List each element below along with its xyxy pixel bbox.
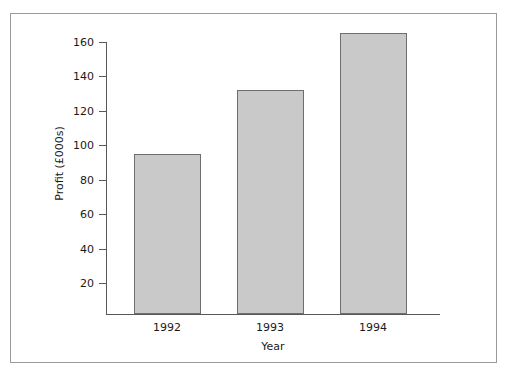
bar-1993 <box>237 90 304 314</box>
y-tick-label-20-wrap: 20 <box>52 278 94 289</box>
y-tick-label-40: 40 <box>54 244 94 255</box>
y-tick-label-160-wrap: 160 <box>52 37 94 48</box>
bar-1992 <box>134 154 201 314</box>
y-tick-mark-60 <box>99 214 106 215</box>
y-tick-mark-100 <box>99 145 106 146</box>
y-tick-label-40-wrap: 40 <box>52 244 94 255</box>
x-tick-label-1992: 1992 <box>122 322 212 334</box>
y-tick-mark-20 <box>99 283 106 284</box>
x-tick-label-1993: 1993 <box>225 322 315 334</box>
x-tick-label-1994: 1994 <box>328 322 418 334</box>
x-axis-title: Year <box>183 341 363 353</box>
y-tick-mark-140 <box>99 76 106 77</box>
y-axis-line <box>106 42 107 315</box>
bar-1994 <box>340 33 407 314</box>
y-tick-mark-120 <box>99 111 106 112</box>
y-axis-title: Profit (£000s) <box>54 104 65 224</box>
y-tick-label-140-wrap: 140 <box>52 71 94 82</box>
bar-chart: 160 140 120 100 80 60 40 20 Profit (£000… <box>0 0 512 375</box>
y-tick-mark-40 <box>99 249 106 250</box>
y-tick-label-140: 140 <box>54 71 94 82</box>
y-tick-label-160: 160 <box>54 37 94 48</box>
y-tick-mark-160 <box>99 42 106 43</box>
x-axis-line <box>106 314 440 315</box>
y-tick-label-20: 20 <box>54 278 94 289</box>
y-tick-mark-80 <box>99 180 106 181</box>
